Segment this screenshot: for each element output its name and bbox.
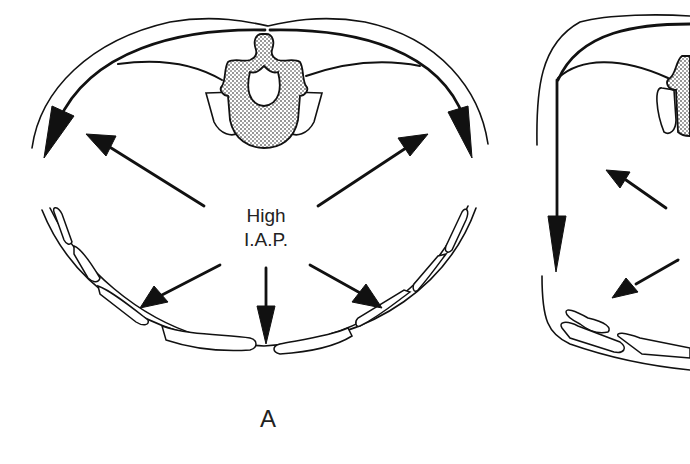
center-label-high: High	[246, 205, 285, 226]
fascia-line-left	[118, 62, 222, 80]
tension-arrowhead-left-icon	[44, 106, 74, 158]
arrow-down-right-icon	[352, 284, 382, 308]
arrow-down-icon	[257, 306, 275, 344]
arrow-up-left-icon	[86, 134, 116, 156]
arrow-up-right-icon	[398, 134, 428, 156]
muscle-layers-left	[54, 208, 256, 351]
panel-b-tension-top	[558, 24, 690, 80]
panel-b-vertebra-icon	[657, 56, 690, 136]
anterior-wall-inner-1	[50, 208, 200, 336]
panel-label-a: A	[260, 405, 276, 432]
abdominal-pressure-diagram: High I.A.P. A	[0, 0, 690, 464]
panel-b	[537, 15, 690, 370]
center-label-iap: I.A.P.	[244, 229, 288, 250]
panel-b-arrowhead-down-icon	[548, 216, 566, 272]
vertebra-icon	[206, 34, 322, 148]
anterior-wall-inner-2	[330, 206, 468, 334]
panel-b-fascia	[558, 62, 668, 78]
panel-a: High I.A.P. A	[32, 19, 488, 432]
arrow-down-left-icon	[140, 286, 168, 308]
fascia-line-right	[306, 62, 420, 76]
muscle-layers-right	[274, 209, 468, 354]
panel-b-arrow-down-left-icon	[612, 278, 638, 298]
tension-arrowhead-right-icon	[448, 106, 472, 158]
panel-b-muscle-layers	[561, 310, 690, 358]
